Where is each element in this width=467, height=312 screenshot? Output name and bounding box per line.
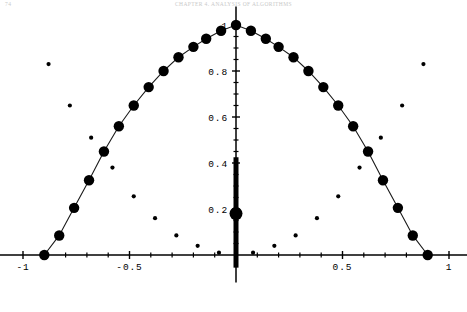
data-point bbox=[378, 175, 388, 185]
data-point bbox=[217, 251, 221, 255]
data-point bbox=[315, 216, 319, 220]
data-point bbox=[348, 121, 358, 131]
data-point bbox=[423, 250, 433, 260]
x-tick-label: -1 bbox=[16, 262, 29, 273]
data-point bbox=[99, 146, 109, 156]
data-point bbox=[231, 20, 241, 30]
y-tick-label: 0.8 bbox=[208, 67, 228, 78]
data-point bbox=[272, 244, 276, 248]
x-tick-label: 1 bbox=[446, 262, 453, 273]
y-tick-label: 0.6 bbox=[208, 113, 228, 124]
data-point bbox=[421, 62, 425, 66]
data-point bbox=[333, 100, 343, 110]
data-point bbox=[357, 166, 361, 170]
plot-figure: -1-0.50.510.20.40.60.81 bbox=[0, 0, 467, 312]
data-point bbox=[251, 251, 255, 255]
data-point bbox=[379, 136, 383, 140]
data-point bbox=[393, 203, 403, 213]
data-point bbox=[129, 100, 139, 110]
data-point bbox=[174, 233, 178, 237]
plot-canvas: -1-0.50.510.20.40.60.81 bbox=[0, 0, 467, 312]
data-point bbox=[294, 233, 298, 237]
data-point bbox=[288, 52, 298, 62]
data-point bbox=[39, 250, 49, 260]
data-point bbox=[54, 230, 64, 240]
data-point bbox=[68, 103, 72, 107]
data-point bbox=[84, 175, 94, 185]
data-point bbox=[132, 194, 136, 198]
data-point bbox=[400, 103, 404, 107]
data-point bbox=[196, 244, 200, 248]
data-point bbox=[363, 146, 373, 156]
y-tick-label: 0.4 bbox=[208, 159, 228, 170]
data-point bbox=[89, 136, 93, 140]
data-point bbox=[69, 203, 79, 213]
y-tick-label: 0.2 bbox=[208, 205, 228, 216]
data-point bbox=[261, 34, 271, 44]
data-point bbox=[273, 42, 283, 52]
data-point bbox=[46, 62, 50, 66]
data-point bbox=[188, 42, 198, 52]
data-point bbox=[408, 230, 418, 240]
data-point bbox=[318, 82, 328, 92]
data-point bbox=[143, 82, 153, 92]
data-point bbox=[216, 26, 226, 36]
data-point bbox=[336, 194, 340, 198]
data-point bbox=[153, 216, 157, 220]
x-tick-label: -0.5 bbox=[116, 262, 142, 273]
data-point bbox=[110, 166, 114, 170]
data-point bbox=[201, 34, 211, 44]
data-point bbox=[173, 52, 183, 62]
bar-marker bbox=[230, 207, 243, 220]
data-point bbox=[303, 66, 313, 76]
data-point bbox=[114, 121, 124, 131]
data-point bbox=[246, 26, 256, 36]
x-tick-label: 0.5 bbox=[333, 262, 353, 273]
data-point bbox=[158, 66, 168, 76]
